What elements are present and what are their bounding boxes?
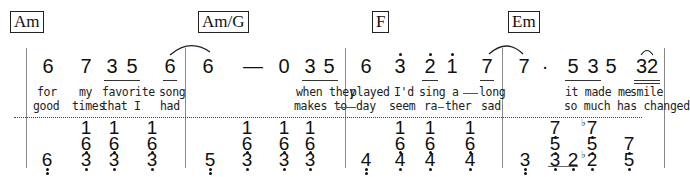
chord-note: 2 [584,150,600,169]
melody-note: 5 [563,55,583,77]
low-octave-dot [524,168,527,171]
lyric-verse1: my [79,86,92,99]
low-octave-dot [365,172,368,175]
melody-note: 5 [122,55,142,77]
lyric-extender [463,93,478,94]
low-octave-dot [151,168,154,171]
low-octave-dot [572,168,575,171]
melody-note: 5 [601,55,621,77]
lyric-verse1: long [479,86,506,99]
melody-note: 1 [442,55,462,77]
lyric-verse1: I'd [394,86,414,99]
lyric-extender [438,107,444,108]
eighth-beam [634,80,660,81]
low-octave-dot [113,168,116,171]
melody-note: 3 [583,55,603,77]
melody-note: 0 [274,55,294,77]
melody-note: 7 [76,55,96,77]
slur-arc [640,48,654,56]
chord-symbol-am-g: Am/G [198,11,249,33]
melody-note: 3 [390,55,410,77]
low-octave-dot [283,168,286,171]
eighth-beam [480,80,494,81]
low-octave-dot [46,168,49,171]
lyric-verse2: ra [424,100,437,113]
low-octave-dot [591,168,594,171]
bass-note: 3 [517,150,533,169]
lyric-verse2: sad [481,100,501,113]
low-octave-dot [113,151,116,154]
low-octave-dot [209,168,212,171]
low-octave-dot [469,168,472,171]
low-octave-dot [628,168,631,171]
low-octave-dot [429,168,432,171]
lyric-verse1: smile [630,86,663,99]
eighth-beam [104,80,140,81]
lyric-verse1: played [350,86,390,99]
chord-symbol-f: F [372,11,389,33]
lyric-verse1: sing a [419,86,459,99]
lyric-verse1: it made me [565,86,631,99]
low-octave-dot [85,168,88,171]
eighth-beam [302,80,338,81]
melody-note: 7 [514,55,534,77]
low-octave-dot [246,168,249,171]
sixteenth-beam [634,83,660,84]
chord-symbol-em: Em [508,11,540,33]
tie-arc [168,42,212,56]
low-octave-dot [151,151,154,154]
melody-note: 6 [356,55,376,77]
lyric-verse2: good [33,100,60,113]
tie-arc [487,42,525,56]
melody-note: 7 [477,55,497,77]
melody-note: 3 [102,55,122,77]
low-octave-dot [309,168,312,171]
lyric-verse1: for [37,86,57,99]
melody-note: 3 [300,55,320,77]
low-octave-dot [85,151,88,154]
barline-start [26,48,27,168]
chord-note: 5 [621,150,637,169]
lyric-verse2: ther [445,100,472,113]
eighth-beam [548,166,578,167]
eighth-beam [565,80,601,81]
augmentation-dot: · [535,55,555,77]
low-octave-dot [46,172,49,175]
low-octave-dot [365,168,368,171]
octave-dot [451,53,454,56]
lyric-extender [338,107,356,108]
melody-note: 2 [420,55,440,77]
lyric-verse2: had [160,100,180,113]
barline-1 [185,48,186,168]
eighth-beam [422,80,438,81]
chord-symbol-am: Am [10,11,44,33]
low-octave-dot [309,151,312,154]
low-octave-dot [524,172,527,175]
octave-dot [429,53,432,56]
lyric-verse2: that I [101,100,141,113]
bass-note: 4 [358,150,374,169]
eighth-beam [163,80,177,81]
melody-note: — [243,55,263,77]
lyric-verse2: so much has changed [564,100,690,113]
low-octave-dot [209,172,212,175]
melody-note: 5 [319,55,339,77]
bass-note: 5 [202,150,218,169]
octave-dot [399,53,402,56]
low-octave-dot [246,151,249,154]
melody-note: 6 [198,55,218,77]
low-octave-dot [554,168,557,171]
low-octave-dot [283,151,286,154]
bass-note: 6 [39,150,55,169]
low-octave-dot [399,168,402,171]
melody-note: 6 [160,55,180,77]
low-octave-dot [429,151,432,154]
melody-note: 32 [632,55,662,77]
barline-3 [502,48,503,168]
lyric-verse2: seem [389,100,416,113]
low-octave-dot [399,151,402,154]
lyric-verse1: favorite [102,86,155,99]
lyric-verse2: day [356,100,376,113]
lyric-verse1: song [159,86,186,99]
lyric-verse1: when they [296,86,356,99]
